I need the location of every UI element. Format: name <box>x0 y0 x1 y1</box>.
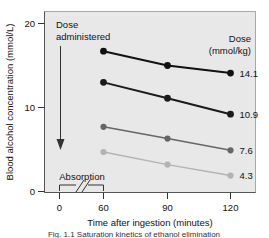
y-tick-label-10: 10 <box>24 102 35 113</box>
chart-svg: 20 10 0 Blood alcohol concentration (mmo… <box>0 0 269 238</box>
x-tick-label-90: 90 <box>162 202 173 213</box>
dose-administered-label-line1: Dose <box>56 19 78 30</box>
data-point-14.1-120[interactable] <box>227 70 234 77</box>
figure-caption: Fig. 1.1 Saturation kinetics of ethanol … <box>48 230 220 238</box>
data-point-14.1-60[interactable] <box>100 48 107 55</box>
data-point-4.3-60[interactable] <box>100 149 106 155</box>
y-tick-label-20: 20 <box>24 18 35 29</box>
data-point-14.1-90[interactable] <box>164 62 171 69</box>
data-point-10.9-90[interactable] <box>164 95 171 102</box>
legend-units: (mmol/kg) <box>209 45 251 56</box>
dose-administered-label-line2: administered <box>56 31 110 42</box>
data-point-4.3-120[interactable] <box>227 172 233 178</box>
data-point-7.6-60[interactable] <box>100 124 106 130</box>
y-axis-title: Blood alcohol concentration (mmol/L) <box>4 24 15 181</box>
figure-container: 20 10 0 Blood alcohol concentration (mmo… <box>0 0 269 238</box>
data-point-4.3-90[interactable] <box>164 162 170 168</box>
legend-title: Dose <box>229 33 251 44</box>
data-point-7.6-90[interactable] <box>164 135 170 141</box>
series-label-4.3: 4.3 <box>240 170 253 181</box>
absorption-label: Absorption <box>59 171 104 182</box>
y-tick-label-0: 0 <box>30 186 35 197</box>
x-tick-label-0: 0 <box>57 202 62 213</box>
data-point-10.9-60[interactable] <box>100 79 107 86</box>
series-label-14.1: 14.1 <box>240 68 259 79</box>
series-label-7.6: 7.6 <box>240 145 253 156</box>
x-tick-label-120: 120 <box>223 202 239 213</box>
data-point-10.9-120[interactable] <box>227 111 234 118</box>
series-label-10.9: 10.9 <box>240 109 259 120</box>
x-axis-title: Time after ingestion (minutes) <box>87 217 212 228</box>
x-tick-label-60: 60 <box>98 202 109 213</box>
data-point-7.6-120[interactable] <box>227 147 233 153</box>
